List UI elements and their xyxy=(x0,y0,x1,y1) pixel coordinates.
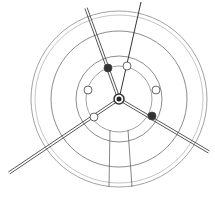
bolt-holes xyxy=(84,62,160,121)
spoke xyxy=(120,98,210,151)
guide-line xyxy=(109,130,110,187)
bolt-hole xyxy=(90,113,98,121)
spoke xyxy=(119,2,141,99)
bolt-hole xyxy=(152,86,160,94)
diagram-canvas xyxy=(0,0,215,198)
guide-line xyxy=(128,130,132,187)
bottom-guide-lines xyxy=(109,130,132,187)
spokes xyxy=(8,2,209,174)
hub-center xyxy=(117,97,122,102)
spoke xyxy=(87,8,120,99)
spoke xyxy=(8,98,118,172)
bolt-hole xyxy=(123,62,131,70)
spoke xyxy=(118,100,208,153)
bolt-hole xyxy=(84,86,92,94)
bolt-hole xyxy=(148,112,156,120)
bolt-hole xyxy=(104,64,112,72)
spoke xyxy=(85,8,118,99)
hub xyxy=(114,94,124,104)
